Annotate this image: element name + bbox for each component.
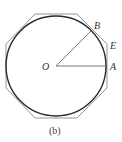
figure-caption: (b) [49,125,61,137]
label-E: E [109,40,116,51]
geometry-diagram: O A B E (b) [0,0,122,142]
label-B: B [94,20,100,31]
radius-OB [56,31,91,66]
label-A: A [109,61,117,72]
label-O: O [42,61,49,72]
